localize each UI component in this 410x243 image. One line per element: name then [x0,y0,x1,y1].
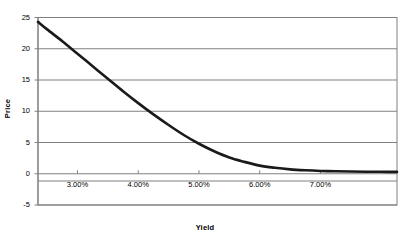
y-tick-label: 0 [4,169,30,178]
x-tick-label: 4.00% [116,180,160,189]
x-tick-label: 6.00% [238,180,282,189]
y-tick-label: -5 [4,200,30,209]
price-yield-chart: 2520151050-5 3.00%4.00%5.00%6.00%7.00% P… [0,0,410,243]
x-tick-label: 5.00% [177,180,221,189]
y-tick-label: 20 [4,44,30,53]
x-tick-label: 3.00% [55,180,99,189]
y-tick-label: 15 [4,75,30,84]
x-axis-title: Yield [165,223,245,232]
y-axis-title: Price [3,89,12,129]
y-tick-label: 25 [4,13,30,22]
chart-canvas [0,0,410,243]
x-tick-label: 7.00% [298,180,342,189]
y-tick-label: 5 [4,138,30,147]
